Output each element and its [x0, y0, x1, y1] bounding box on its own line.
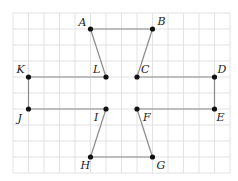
label-c: C — [141, 63, 150, 76]
point-i — [103, 106, 108, 111]
grid-lines — [13, 13, 230, 173]
point-k — [26, 74, 31, 79]
label-d: D — [217, 63, 227, 76]
label-j: J — [16, 112, 23, 125]
point-g — [150, 154, 155, 159]
point-a — [88, 26, 93, 31]
point-f — [134, 106, 139, 111]
label-g: G — [157, 159, 166, 172]
label-h: H — [80, 159, 91, 172]
label-k: K — [16, 63, 26, 76]
point-b — [150, 26, 155, 31]
point-j — [26, 106, 31, 111]
label-b: B — [157, 15, 166, 28]
label-f: F — [142, 111, 151, 124]
label-i: I — [93, 111, 99, 124]
label-a: A — [78, 16, 87, 29]
diagram-canvas: ABCDEFGHIJKL — [0, 0, 238, 181]
point-c — [134, 74, 139, 79]
label-l: L — [92, 63, 100, 76]
point-d — [212, 74, 217, 79]
label-e: E — [216, 111, 225, 124]
point-l — [103, 74, 108, 79]
grid-diagram: ABCDEFGHIJKL — [0, 0, 238, 181]
